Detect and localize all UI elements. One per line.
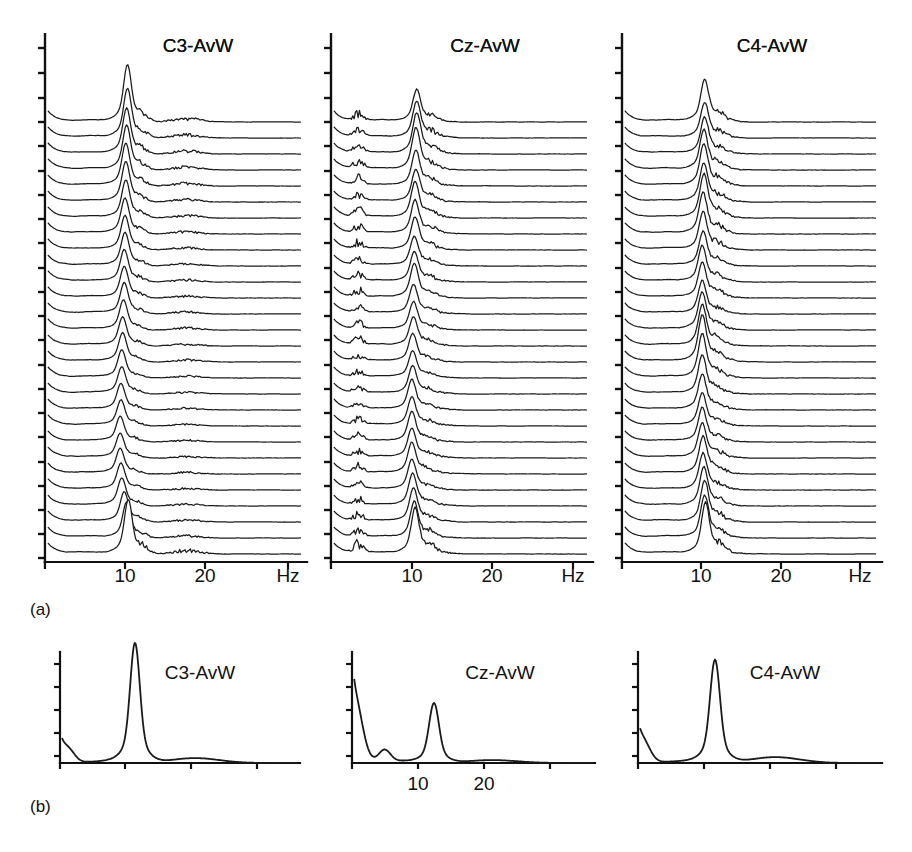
panel-b-cz-avw-xtick-label-10: 10 (407, 773, 428, 794)
panel-b-channel-label-c4-avw: C4-AvW (750, 662, 820, 683)
panel-a-channel-label-c4-avw-fg: C4-AvW (737, 35, 807, 56)
panel-b-channel-label-cz-avw: Cz-AvW (465, 662, 534, 683)
panel-b-channel-label-c3-avw: C3-AvW (165, 662, 235, 683)
panel-a-channel-label-c3-avw-fg: C3-AvW (163, 35, 233, 56)
panel-a-trace (625, 79, 875, 122)
panel-a: 1020HzC3-AvW1020HzC3-AvW1020HzCz-AvW1020… (38, 34, 882, 614)
panel-a-trace (48, 65, 300, 122)
panel-b-cz-avw-xtick-label-20: 20 (473, 773, 494, 794)
panel-a-cz-avw-top-xtick-label-20: 20 (481, 565, 502, 586)
panel-b-spectrum (354, 680, 592, 763)
panel-a-c4-avw-top-xtick-label-20: 20 (770, 565, 791, 586)
panel-b-spectrum (62, 643, 298, 763)
panel-a-channel-label-cz-avw-fg: Cz-AvW (450, 35, 519, 56)
caption-sliver-cutoff (46, 841, 276, 850)
figure-labels: (a)(b) (30, 600, 51, 816)
panel-label-a: (a) (30, 600, 51, 619)
panel-a-trace (334, 89, 586, 122)
panel-a-cz-avw-top-xtick-label-30: Hz (561, 565, 584, 586)
figure-root: 1020HzC3-AvW1020HzC3-AvW1020HzCz-AvW1020… (0, 0, 912, 852)
panel-a-c4-avw-top-xtick-label-30: Hz (848, 565, 871, 586)
panel-a-c3-avw-top-xtick-label-20: 20 (194, 565, 215, 586)
panel-a-c3-avw-top-xtick-label-10: 10 (114, 565, 135, 586)
panel-b: C3-AvW1020Cz-AvWC4-AvW (54, 643, 882, 794)
panel-a-cz-avw-top-xtick-label-10: 10 (401, 565, 422, 586)
panel-a-c4-avw-top-xtick-label-10: 10 (690, 565, 711, 586)
panel-a-c3-avw-top-xtick-label-30: Hz (276, 565, 299, 586)
eeg-spectra-figure: 1020HzC3-AvW1020HzC3-AvW1020HzCz-AvW1020… (0, 0, 912, 852)
panel-label-b: (b) (30, 797, 51, 816)
